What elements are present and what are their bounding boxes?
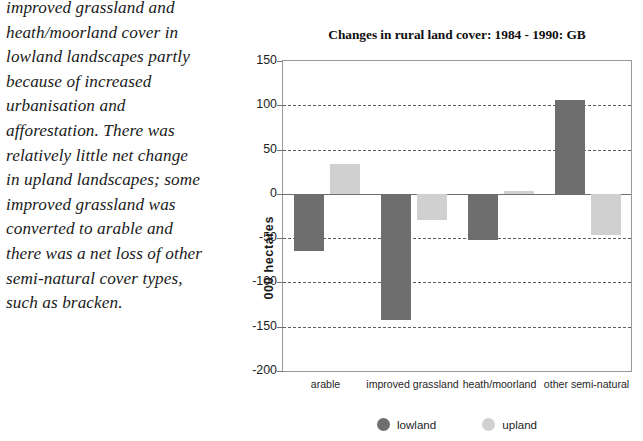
legend-label: upland xyxy=(502,418,537,431)
legend-item-lowland: lowland xyxy=(377,418,436,431)
bar-chart: Changes in rural land cover: 1984 - 1990… xyxy=(0,0,643,441)
y-axis-tick-label: -150 xyxy=(217,319,277,333)
x-axis-category-label: heath/moorland xyxy=(463,378,537,390)
gridline xyxy=(283,238,631,239)
y-axis-tick xyxy=(277,61,283,62)
bar-lowland-arable xyxy=(294,194,324,252)
y-axis-tick xyxy=(277,371,283,372)
gridline xyxy=(283,282,631,283)
y-axis-tick xyxy=(277,194,283,195)
legend-swatch-lowland xyxy=(377,418,390,431)
bar-upland-improved-grassland xyxy=(417,194,447,220)
y-axis-tick xyxy=(277,105,283,106)
gridline xyxy=(283,327,631,328)
y-axis-tick-label: 0 xyxy=(217,186,277,200)
legend-label: lowland xyxy=(397,418,436,431)
y-axis-tick xyxy=(277,150,283,151)
legend-item-upland: upland xyxy=(482,418,537,431)
zero-axis-line xyxy=(283,194,631,195)
y-axis-tick-label: 150 xyxy=(217,53,277,67)
y-axis-tick-label: -100 xyxy=(217,274,277,288)
y-axis-tick-label: -200 xyxy=(217,363,277,377)
y-axis-tick-label: 50 xyxy=(217,142,277,156)
y-axis-tick-label: 100 xyxy=(217,97,277,111)
bar-upland-heath-moorland xyxy=(504,191,534,194)
chart-title: Changes in rural land cover: 1984 - 1990… xyxy=(282,27,632,43)
bar-lowland-other-semi-natural xyxy=(555,100,585,194)
bar-lowland-improved-grassland xyxy=(381,194,411,320)
page-root: of grassland cover,improved grassland an… xyxy=(0,0,643,441)
x-axis-category-label: arable xyxy=(311,378,340,390)
y-axis-tick xyxy=(277,282,283,283)
y-axis-tick xyxy=(277,327,283,328)
plot-area: 000 hectares 150100500-50-100-150-200 xyxy=(282,60,632,372)
legend-swatch-upland xyxy=(482,418,495,431)
y-axis-tick-label: -50 xyxy=(217,230,277,244)
x-axis-category-label: improved grassland xyxy=(366,378,458,390)
bar-upland-arable xyxy=(330,164,360,194)
bar-upland-other-semi-natural xyxy=(591,194,621,235)
chart-legend: lowlandupland xyxy=(282,418,632,431)
bar-lowland-heath-moorland xyxy=(468,194,498,240)
x-axis-category-label: other semi-natural xyxy=(544,378,629,390)
y-axis-tick xyxy=(277,238,283,239)
